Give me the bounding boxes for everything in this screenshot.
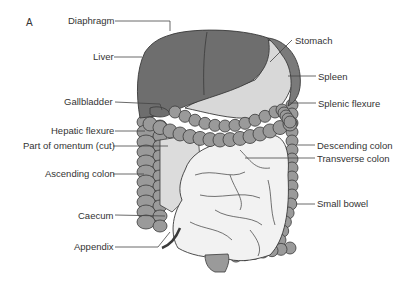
label-liver: Liver [93,51,114,62]
label-gallbladder: Gallbladder [64,96,113,107]
colon-haustrum [153,220,167,232]
colon-haustrum [284,116,296,128]
panel-label: A [26,17,33,28]
label-descending-colon: Descending colon [317,140,393,151]
colon-haustrum [137,215,155,229]
label-ascending-colon: Ascending colon [45,168,115,179]
label-appendix: Appendix [74,241,114,252]
label-hepatic-flexure: Hepatic flexure [51,125,114,136]
label-stomach: Stomach [295,35,333,46]
leader-line [115,21,170,31]
label-omentum: Part of omentum (cut) [23,140,115,151]
label-caecum: Caecum [78,210,113,221]
leader-line [115,232,170,247]
label-small-bowel: Small bowel [317,198,368,209]
label-spleen: Spleen [318,71,348,82]
label-transverse-colon: Transverse colon [317,153,390,164]
label-diaphragm: Diaphragm [68,15,114,26]
rectum [205,254,229,272]
label-splenic-flexure: Splenic flexure [318,98,380,109]
